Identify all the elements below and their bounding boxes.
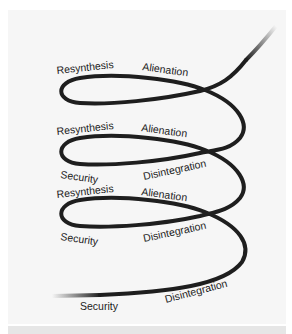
label-alienation-1: Alienation (142, 60, 189, 78)
label-security-3: Security (60, 230, 100, 247)
spiral-diagram: Resynthesis Alienation Resynthesis Alien… (0, 0, 292, 334)
label-security-2: Security (60, 168, 100, 185)
spiral-bottom-tail (52, 295, 100, 296)
spiral-top-tail (246, 26, 276, 60)
label-disintegration-4: Disintegration (163, 277, 228, 305)
label-resynthesis-1: Resynthesis (56, 58, 114, 76)
label-security-4: Security (80, 300, 119, 312)
